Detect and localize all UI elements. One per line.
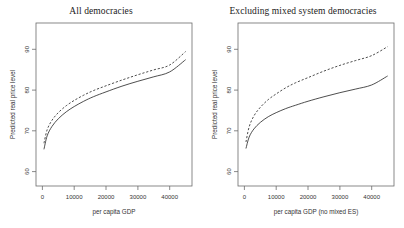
x-tick-label-40000-left: 40000 — [161, 194, 178, 200]
x-tick-label-10000-left: 10000 — [66, 194, 83, 200]
panel-excluding-mixed-system: Excluding mixed system democracies 60 70… — [202, 0, 404, 228]
series-solid-right — [246, 76, 388, 149]
x-tick-label-20000-left: 20000 — [98, 194, 115, 200]
x-axis-title-right: per capita GDP (no mixed ES) — [274, 208, 359, 216]
x-tick-label-30000-left: 30000 — [130, 194, 147, 200]
y-tick-label-80-right: 80 — [226, 86, 232, 93]
y-axis-ticks-left — [32, 49, 36, 171]
plot-frame-right — [238, 23, 394, 186]
x-axis-ticks-right — [244, 186, 371, 190]
y-axis-ticks-right — [234, 49, 238, 171]
figure-two-panel-chart: All democracies 60 70 80 90 Predicted re… — [0, 0, 404, 228]
y-axis-title-left: Predicted real price level — [9, 70, 17, 139]
x-tick-label-20000-right: 20000 — [300, 194, 317, 200]
y-tick-label-70-right: 70 — [226, 127, 232, 134]
y-tick-label-80-left: 80 — [24, 86, 30, 93]
series-dashed-left — [44, 52, 186, 144]
plot-area-right: 60 70 80 90 Predicted real price level 0… — [202, 0, 404, 228]
x-axis-title-left: per capita GDP — [92, 208, 135, 216]
y-axis-title-right: Predicted real price level — [211, 70, 219, 139]
x-tick-label-0-left: 0 — [41, 194, 45, 200]
y-tick-label-70-left: 70 — [24, 127, 30, 134]
x-tick-label-0-right: 0 — [243, 194, 247, 200]
panel-all-democracies: All democracies 60 70 80 90 Predicted re… — [0, 0, 202, 228]
x-tick-label-40000-right: 40000 — [363, 194, 380, 200]
y-tick-label-60-left: 60 — [24, 168, 30, 175]
y-tick-label-90-right: 90 — [226, 45, 232, 52]
x-tick-label-30000-right: 30000 — [332, 194, 349, 200]
plot-area-left: 60 70 80 90 Predicted real price level 0… — [0, 0, 202, 228]
series-dashed-right — [246, 47, 388, 142]
x-axis-ticks-left — [42, 186, 169, 190]
y-tick-label-60-right: 60 — [226, 168, 232, 175]
plot-frame-left — [36, 23, 192, 186]
series-solid-left — [44, 60, 186, 150]
x-tick-label-10000-right: 10000 — [268, 194, 285, 200]
y-tick-label-90-left: 90 — [24, 45, 30, 52]
